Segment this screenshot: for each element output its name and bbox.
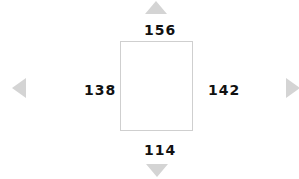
arrow-right-icon[interactable] (286, 78, 299, 98)
arrow-down-icon[interactable] (146, 164, 168, 177)
right-value: 142 (208, 82, 240, 98)
arrow-up-icon[interactable] (145, 1, 167, 14)
top-value: 156 (144, 22, 176, 38)
preview-box (120, 41, 193, 131)
left-value: 138 (84, 82, 116, 98)
arrow-left-icon[interactable] (12, 78, 26, 98)
bottom-value: 114 (144, 142, 176, 158)
